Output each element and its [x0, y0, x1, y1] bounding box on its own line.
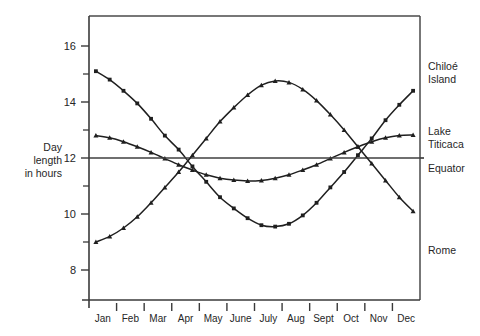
series-rome: [93, 79, 415, 245]
x-axis-month-label: Mar: [149, 313, 167, 324]
data-point-marker: [177, 148, 181, 152]
data-point-marker: [301, 214, 305, 218]
x-axis-month-label: Jan: [95, 313, 111, 324]
y-axis-title: Day length in hours: [25, 141, 63, 179]
y-tick-label: 10: [64, 208, 76, 220]
y-axis-title-line: in hours: [25, 167, 62, 179]
data-point-marker: [122, 89, 126, 93]
x-axis-month-labels: JanFebMarAprMayJuneJulyAugSeptOctNovDec: [95, 313, 415, 324]
x-axis-month-label: Oct: [343, 313, 359, 324]
data-point-marker: [315, 201, 319, 205]
x-axis-month-label: Dec: [397, 313, 415, 324]
data-point-marker: [384, 118, 388, 122]
series-label-equator: Equator: [428, 162, 465, 174]
y-axis-title-line: length: [33, 154, 62, 166]
x-axis-month-label: Apr: [178, 313, 194, 324]
y-axis-title-line: Day: [43, 141, 62, 153]
series-group: [89, 69, 424, 244]
x-axis-ticks: [117, 303, 393, 311]
y-tick-labels: 16 14 12 10 8: [64, 40, 76, 276]
x-axis-month-label: Sept: [313, 313, 334, 324]
data-point-marker: [260, 223, 264, 227]
data-point-marker: [149, 117, 153, 121]
data-point-marker: [94, 69, 98, 73]
series-label-lake-titicaca: Lake: [428, 125, 451, 137]
y-tick-label: 14: [64, 96, 76, 108]
x-axis-month-label: Aug: [287, 313, 305, 324]
data-point-marker: [356, 153, 360, 157]
data-point-marker: [163, 134, 167, 138]
data-point-marker: [218, 195, 222, 199]
data-point-marker: [204, 180, 208, 184]
x-axis-month-label: May: [204, 313, 223, 324]
data-point-marker: [287, 222, 291, 226]
x-axis-month-label: July: [259, 313, 277, 324]
data-point-marker: [232, 207, 236, 211]
chart-svg: 16 14 12 10 8 Day length in hours JanFeb…: [0, 0, 480, 336]
series-label-chiloe-island-line2: Island: [428, 73, 456, 85]
series-label-rome: Rome: [428, 244, 456, 256]
data-point-marker: [342, 170, 346, 174]
data-point-marker: [411, 89, 415, 93]
series-label-chiloe-island: Chiloé: [428, 60, 458, 72]
y-tick-label: 12: [64, 152, 76, 164]
data-point-marker: [397, 103, 401, 107]
series-line: [96, 81, 413, 242]
day-length-chart: 16 14 12 10 8 Day length in hours JanFeb…: [0, 0, 480, 336]
data-point-marker: [328, 186, 332, 190]
x-axis-month-label: June: [230, 313, 252, 324]
x-axis-month-label: Feb: [122, 313, 140, 324]
x-axis-month-label: Nov: [370, 313, 388, 324]
series-label-lake-titicaca-line2: Titicaca: [428, 138, 464, 150]
y-tick-label: 16: [64, 40, 76, 52]
data-point-marker: [246, 216, 250, 220]
data-point-marker: [135, 102, 139, 106]
data-point-marker: [108, 78, 112, 82]
y-axis-major-ticks: [81, 46, 89, 270]
data-point-marker: [273, 225, 277, 229]
series-labels: Chiloé Island Lake Titicaca Equator Rome: [428, 60, 465, 256]
y-tick-label: 8: [70, 264, 76, 276]
